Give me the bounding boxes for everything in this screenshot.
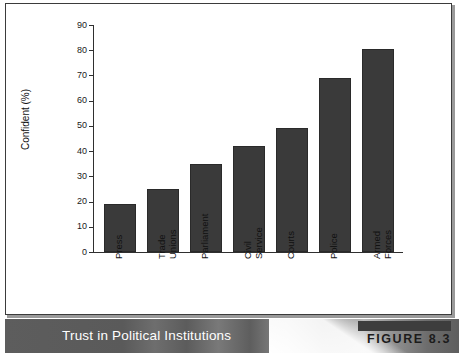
x-category-label-armed-forces: Armed Forces [372,230,393,259]
y-tick-label-10: 10 [77,222,87,231]
y-tick-label-80: 80 [77,46,87,55]
y-tick-label-50: 50 [77,121,87,130]
x-category-label-courts: Courts [286,231,297,259]
y-tick-mark-40 [89,151,93,152]
y-tick-mark-0 [89,252,93,253]
y-tick-label-30: 30 [77,172,87,181]
y-tick-mark-70 [89,75,93,76]
figure-number-badge: FIGURE 8.3 [341,321,451,351]
y-tick-label-0: 0 [82,248,87,257]
x-category-label-trade-unions: Trade Unions [157,229,178,259]
bar-armed-forces [362,49,394,252]
y-tick-mark-60 [89,101,93,102]
y-tick-label-60: 60 [77,96,87,105]
y-tick-mark-20 [89,202,93,203]
x-category-label-civil-service: Civil Service [243,227,264,259]
y-tick-mark-30 [89,176,93,177]
x-category-label-press: Press [114,235,125,259]
x-category-label-police: Police [329,233,340,259]
figure-number-label: FIGURE 8.3 [341,332,451,346]
figure-caption-title: Trust in Political Institutions [62,328,231,343]
y-tick-mark-90 [89,25,93,26]
bar-chart: Confident (%) 0 10 20 30 40 50 60 70 80 … [6,4,453,316]
y-axis-title: Confident (%) [20,65,31,175]
y-axis-line [93,25,94,253]
bar-police [319,78,351,252]
y-tick-label-20: 20 [77,197,87,206]
y-tick-mark-80 [89,50,93,51]
plot-frame: Confident (%) 0 10 20 30 40 50 60 70 80 … [5,3,452,315]
x-category-label-parliament: Parliament [200,214,211,259]
y-tick-label-70: 70 [77,71,87,80]
y-tick-mark-50 [89,126,93,127]
y-tick-mark-10 [89,227,93,228]
y-tick-label-90: 90 [77,21,87,30]
figure-badge-block [358,321,451,331]
figure-root: Confident (%) 0 10 20 30 40 50 60 70 80 … [0,0,459,353]
figure-caption-bar: Trust in Political Institutions FIGURE 8… [5,319,459,353]
y-tick-label-40: 40 [77,147,87,156]
